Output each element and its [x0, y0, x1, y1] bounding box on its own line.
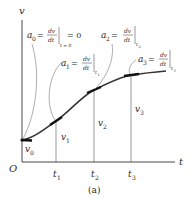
origin-label: O [9, 163, 17, 174]
v2-label: v 2 [98, 118, 107, 130]
v0-label: v 0 [25, 144, 34, 156]
svg-text:2: 2 [103, 123, 107, 130]
svg-text:dv: dv [124, 27, 132, 34]
svg-text:dt: dt [124, 36, 131, 43]
svg-text:1: 1 [66, 63, 70, 70]
svg-text:= 0: = 0 [67, 31, 81, 40]
svg-text:=: = [37, 31, 44, 40]
svg-text:dt: dt [83, 64, 90, 71]
svg-text:=: = [71, 59, 78, 68]
t-axis-label: t [179, 156, 184, 167]
v1-label: v 1 [61, 132, 70, 144]
svg-text:1: 1 [98, 73, 100, 77]
svg-text:3: 3 [140, 109, 144, 116]
v-axis-label: v [19, 5, 25, 16]
v3-label: v 3 [135, 104, 144, 116]
svg-text:dt: dt [48, 36, 55, 43]
svg-text:1: 1 [66, 137, 70, 144]
svg-text:dv: dv [83, 55, 91, 62]
annotation-a0: a 0 = dv dt t = 0 = 0 [27, 27, 81, 48]
tick-t2: t 2 [91, 169, 99, 181]
svg-text:0: 0 [32, 35, 36, 42]
tangent-a3 [124, 74, 139, 76]
leader-a0 [23, 44, 37, 139]
svg-text:2: 2 [95, 174, 99, 181]
svg-text:dv: dv [160, 51, 168, 58]
tick-t3: t 3 [128, 169, 136, 181]
svg-text:2: 2 [139, 45, 141, 49]
tick-t1: t 1 [53, 169, 61, 181]
svg-text:dv: dv [48, 27, 56, 34]
annotation-a2: a 2 = dv dt t 2 [101, 26, 141, 49]
annotation-a3: a 3 = dv dt t 3 [138, 50, 176, 73]
svg-text:3: 3 [143, 59, 147, 66]
svg-text:2: 2 [106, 35, 110, 42]
svg-text:=: = [148, 55, 155, 64]
svg-text:t = 0: t = 0 [60, 43, 71, 48]
figure-caption: (a) [88, 185, 100, 195]
annotation-a1: a 1 = dv dt t 1 [61, 54, 100, 77]
svg-text:0: 0 [30, 149, 34, 156]
svg-text:3: 3 [174, 69, 176, 73]
velocity-time-diagram: v t O t 1 t 2 t 3 v 0 v 1 v 2 v 3 a 0 = … [0, 0, 193, 205]
svg-text:dt: dt [160, 60, 167, 67]
svg-text:1: 1 [57, 174, 61, 181]
svg-text:=: = [111, 31, 118, 40]
leader-a3 [129, 60, 136, 74]
svg-text:3: 3 [132, 174, 136, 181]
leader-a1 [49, 62, 62, 120]
